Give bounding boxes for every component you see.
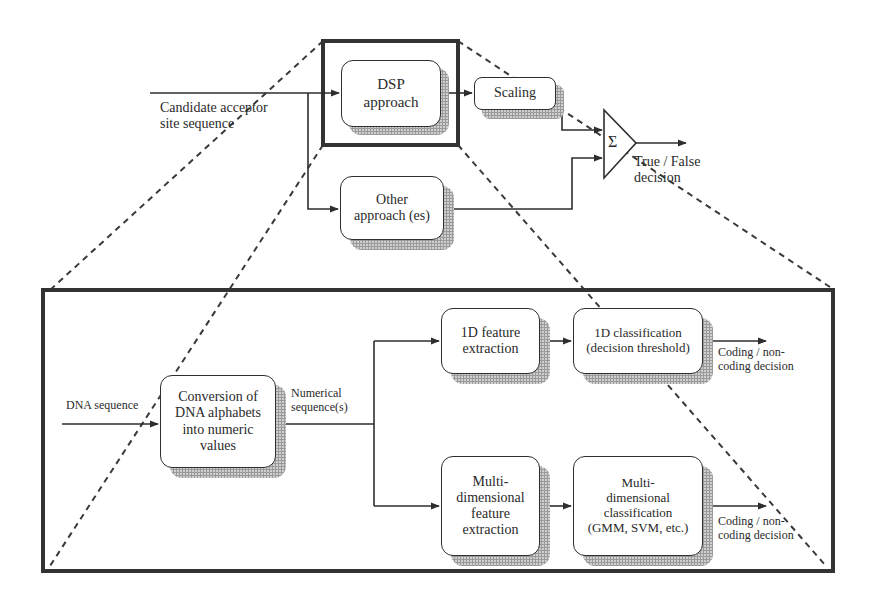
conversion-box: Conversion of DNA alphabets into numeric… — [160, 375, 276, 468]
classification-1d-box: 1D classification (decision threshold) — [573, 308, 703, 374]
classification-1d-label: 1D classification (decision threshold) — [586, 326, 690, 356]
scaling-box: Scaling — [474, 77, 556, 110]
other-approach-box: Other approach (es) — [340, 176, 444, 240]
numerical-sequences-label: Numerical sequence(s) — [291, 387, 348, 415]
scaling-label: Scaling — [494, 85, 536, 101]
conversion-label: Conversion of DNA alphabets into numeric… — [175, 389, 261, 453]
feature-1d-label: 1D feature extraction — [461, 325, 520, 357]
classification-md-label: Multi- dimensional classification (GMM, … — [588, 476, 689, 536]
coding-decision-md-label: Coding / non- coding decision — [718, 515, 794, 543]
other-approach-label: Other approach (es) — [354, 192, 430, 224]
candidate-sequence-label: Candidate acceptor site sequence — [160, 100, 268, 132]
feature-1d-box: 1D feature extraction — [441, 308, 540, 374]
classification-md-box: Multi- dimensional classification (GMM, … — [573, 456, 703, 556]
dsp-approach-label: DSP approach — [364, 76, 419, 111]
true-false-decision-label: True / False decision — [634, 154, 700, 186]
dsp-approach-box: DSP approach — [341, 60, 441, 127]
feature-md-label: Multi- dimensional feature extraction — [456, 474, 524, 538]
sigma-icon: Σ — [608, 133, 617, 151]
feature-md-box: Multi- dimensional feature extraction — [441, 456, 540, 556]
dna-sequence-label: DNA sequence — [66, 399, 138, 413]
coding-decision-1d-label: Coding / non- coding decision — [718, 346, 794, 374]
